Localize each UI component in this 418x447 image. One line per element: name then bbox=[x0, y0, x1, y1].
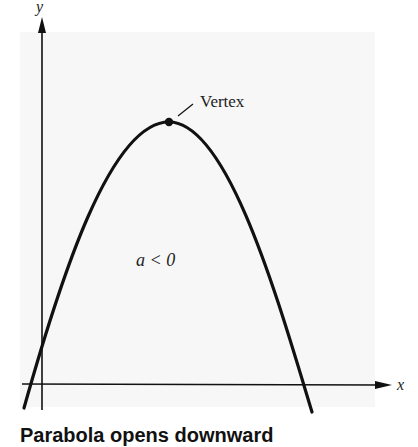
vertex-point bbox=[165, 118, 173, 126]
figure-caption: Parabola opens downward bbox=[20, 424, 273, 447]
x-axis-arrow-icon bbox=[375, 381, 392, 389]
vertex-label: Vertex bbox=[200, 92, 244, 112]
vertex-leader-line bbox=[178, 104, 193, 116]
x-axis-label: x bbox=[397, 376, 404, 394]
y-axis-arrow-icon bbox=[38, 17, 46, 33]
condition-label: a < 0 bbox=[136, 250, 175, 271]
x-axis bbox=[22, 384, 380, 385]
condition-text: a < 0 bbox=[136, 250, 175, 270]
y-axis-label: y bbox=[36, 0, 43, 16]
